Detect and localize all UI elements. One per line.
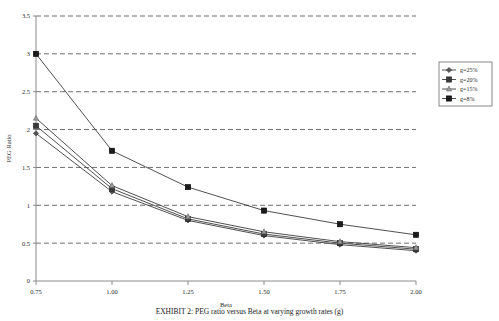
y-tick-label: 1.5 [22, 164, 30, 171]
x-tick-label: 1.75 [334, 288, 345, 295]
series-line-g20 [36, 126, 416, 249]
y-tick-label: 1 [27, 202, 30, 209]
legend-label-0[interactable]: g=25% [460, 67, 477, 73]
y-tick-label: 3.5 [22, 12, 30, 19]
y-tick-label: 0 [27, 277, 30, 284]
series-line-g25 [36, 133, 416, 250]
data-point-g8-5 [413, 232, 418, 237]
y-tick-label: 2.5 [22, 88, 30, 95]
data-point-g8-0 [33, 51, 38, 56]
x-tick-label: 0.75 [30, 288, 41, 295]
series-line-g8 [36, 54, 416, 235]
data-point-g8-1 [109, 148, 114, 153]
chart-canvas: 00.511.522.533.50.751.001.251.501.752.00… [0, 0, 499, 321]
legend-label-2[interactable]: g=15% [460, 86, 477, 92]
y-tick-label: 3 [27, 50, 30, 57]
y-tick-label: 0.5 [22, 240, 30, 247]
legend-marker-1 [446, 77, 451, 82]
data-point-g8-4 [337, 222, 342, 227]
x-tick-label: 1.25 [182, 288, 193, 295]
peg-ratio-beta-chart: 00.511.522.533.50.751.001.251.501.752.00… [0, 0, 499, 321]
x-tick-label: 2.00 [410, 288, 421, 295]
figure-caption: EXHIBIT 2: PEG ratio versus Beta at vary… [0, 307, 499, 316]
legend-label-3[interactable]: g=8% [460, 96, 474, 102]
legend-marker-3 [446, 96, 451, 101]
x-tick-label: 1.00 [106, 288, 117, 295]
legend-label-1[interactable]: g=20% [460, 77, 477, 83]
data-point-g15-0 [33, 115, 38, 120]
data-point-g15-1 [109, 183, 114, 188]
x-tick-label: 1.50 [258, 288, 269, 295]
y-tick-label: 2 [27, 126, 30, 133]
y-axis-title: PEG Ratio [5, 135, 12, 163]
data-point-g8-2 [185, 185, 190, 190]
data-point-g8-3 [261, 208, 266, 213]
data-point-g20-0 [33, 123, 38, 128]
